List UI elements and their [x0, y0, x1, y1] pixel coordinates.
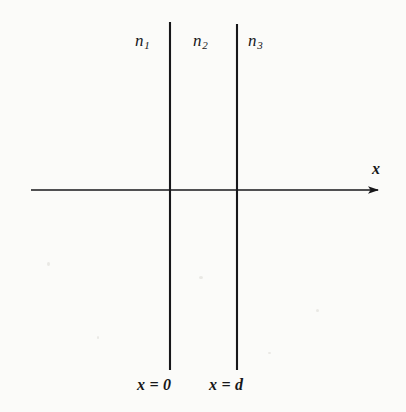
- region-label-n3: n3: [248, 32, 262, 49]
- region-label-n1-base: n: [135, 31, 144, 50]
- region-label-n1-subscript: 1: [144, 39, 150, 51]
- scan-speckle: [97, 336, 99, 339]
- region-label-n2-subscript: 2: [202, 39, 208, 51]
- figure-canvas: n1 n2 n3 x = 0 x = d x: [0, 0, 406, 412]
- scan-speckle: [268, 352, 271, 354]
- region-label-n3-base: n: [248, 31, 257, 50]
- diagram-svg: [0, 0, 406, 412]
- scan-speckle: [199, 276, 203, 279]
- x-axis-label: x: [372, 161, 380, 177]
- region-label-n1: n1: [135, 32, 149, 49]
- boundary-label-x-equals-0: x = 0: [137, 377, 171, 393]
- boundary-label-x-equals-d: x = d: [209, 377, 243, 393]
- region-label-n3-subscript: 3: [257, 39, 263, 51]
- region-label-n2-base: n: [193, 31, 202, 50]
- region-label-n2: n2: [193, 32, 207, 49]
- scan-speckle: [47, 262, 50, 266]
- scan-speckle: [316, 309, 319, 312]
